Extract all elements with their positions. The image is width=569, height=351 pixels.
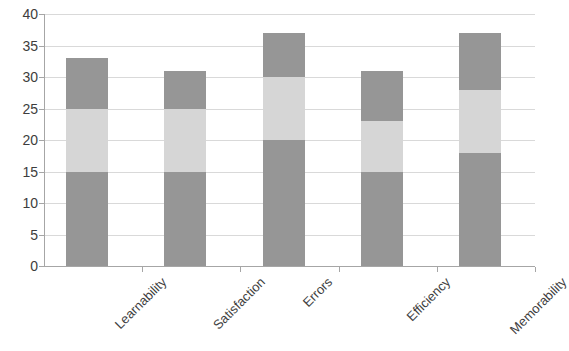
y-axis-tick-label: 25 [4, 102, 38, 116]
bar-segment [361, 71, 403, 121]
bar-efficiency[interactable] [361, 71, 403, 266]
x-axis-label-text: Memorability [507, 275, 568, 336]
bar-segment [164, 109, 206, 172]
bar-segment [164, 172, 206, 267]
y-axis-tick-label: 10 [4, 196, 38, 210]
y-axis-tick [39, 203, 45, 204]
x-axis-label-text: Errors [300, 275, 334, 309]
gridline [44, 14, 535, 15]
y-axis-labels: 4035302520151050 [0, 0, 38, 351]
y-axis-tick [39, 266, 45, 267]
y-axis-tick-label: 0 [4, 259, 38, 273]
x-axis-label-errors: Errors [300, 275, 334, 309]
x-axis-tick [240, 267, 241, 272]
bar-satisfaction[interactable] [164, 71, 206, 266]
bar-segment [66, 109, 108, 172]
x-axis-label-text: Learnability [113, 275, 169, 331]
bar-segment [263, 140, 305, 266]
y-axis-tick-label: 15 [4, 165, 38, 179]
x-axis-label-memorability: Memorability [507, 275, 568, 336]
bar-segment [164, 71, 206, 109]
x-axis-label-efficiency: Efficiency [404, 275, 452, 323]
y-axis-tick [39, 235, 45, 236]
y-axis-tick [39, 109, 45, 110]
y-axis-tick-label: 30 [4, 70, 38, 84]
bar-errors[interactable] [263, 33, 305, 266]
bar-segment [66, 58, 108, 108]
x-axis-baseline [44, 266, 535, 267]
bar-segment [66, 172, 108, 267]
bar-segment [361, 172, 403, 267]
x-axis-tick [142, 267, 143, 272]
bar-memorability[interactable] [459, 33, 501, 266]
y-axis-tick [39, 46, 45, 47]
y-axis-tick [39, 77, 45, 78]
x-axis-label-text: Satisfaction [211, 275, 268, 332]
y-axis-tick-label: 20 [4, 133, 38, 147]
bar-segment [459, 153, 501, 266]
x-axis-tick [339, 267, 340, 272]
y-axis-tick-label: 40 [4, 7, 38, 21]
x-axis-tick [535, 267, 536, 272]
y-axis-tick [39, 140, 45, 141]
x-axis-label-text: Efficiency [404, 275, 452, 323]
bar-segment [459, 33, 501, 90]
y-axis-tick [39, 172, 45, 173]
x-axis-label-learnability: Learnability [113, 275, 169, 331]
y-axis-tick [39, 14, 45, 15]
x-axis-tick [437, 267, 438, 272]
bar-learnability[interactable] [66, 58, 108, 266]
bar-segment [263, 77, 305, 140]
y-axis-tick-label: 35 [4, 39, 38, 53]
x-axis-label-satisfaction: Satisfaction [211, 275, 268, 332]
bar-segment [459, 90, 501, 153]
y-axis-tick-label: 5 [4, 228, 38, 242]
bar-segment [263, 33, 305, 77]
bar-segment [361, 121, 403, 171]
